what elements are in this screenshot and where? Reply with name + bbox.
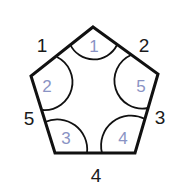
side-label-3: 3 [155,107,166,128]
angle-label-1: 1 [89,37,98,56]
angle-label-2: 2 [42,77,51,96]
side-label-1: 1 [37,35,48,56]
pentagon-svg: 1 2 3 4 5 1 2 3 4 5 [0,0,179,187]
pentagon-diagram: 1 2 3 4 5 1 2 3 4 5 [0,0,179,187]
side-label-2: 2 [139,35,150,56]
side-label-5: 5 [24,108,35,129]
angle-label-3: 3 [61,129,70,148]
angle-label-5: 5 [136,77,145,96]
angle-label-4: 4 [118,129,127,148]
side-label-4: 4 [91,165,102,186]
